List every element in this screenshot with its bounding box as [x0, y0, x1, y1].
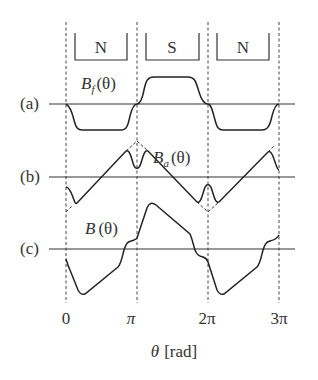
x-tick-0: 0 [62, 309, 71, 328]
x-tick-3pi: 3π [270, 309, 288, 328]
row-c-tag: (c) [20, 239, 39, 258]
row-a-tag: (a) [20, 94, 39, 113]
x-axis-label: θ[rad] [151, 342, 197, 361]
magnet-s-label: S [167, 38, 176, 57]
b-label: B(θ) [85, 219, 118, 238]
ba-label: Ba(θ) [153, 148, 190, 169]
magnet-n1-label: N [95, 38, 107, 57]
bf-label: Bf(θ) [81, 74, 116, 95]
magnet-n2-label: N [237, 38, 249, 57]
row-b-tag: (b) [20, 167, 40, 186]
x-tick-pi: π [127, 309, 136, 328]
x-tick-2pi: 2π [198, 309, 216, 328]
magnetic-flux-diagram: N S N (a) (b) (c) Bf(θ) Ba(θ) B(θ) 0 π 2… [0, 0, 318, 380]
